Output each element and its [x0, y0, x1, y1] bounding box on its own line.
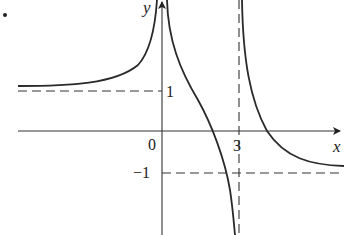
y-tick-1: 1: [166, 83, 174, 100]
y-tick-neg1: −1: [133, 164, 150, 181]
graph-canvas: y x 0 1 −1 3: [0, 0, 344, 235]
origin-label: 0: [148, 136, 156, 153]
curve-left-branch: [18, 0, 157, 86]
x-axis-label: x: [332, 137, 341, 156]
x-tick-3: 3: [233, 137, 241, 154]
y-axis-label: y: [141, 0, 151, 17]
curve-middle-branch: [167, 0, 235, 235]
function-graph: y x 0 1 −1 3: [0, 0, 344, 235]
problem-number-dot: [3, 13, 7, 17]
curve-right-branch: [242, 0, 344, 166]
